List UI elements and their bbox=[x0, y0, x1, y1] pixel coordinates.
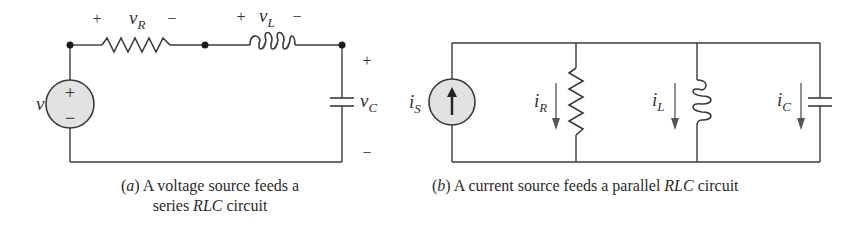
vl-plus-sign: + bbox=[236, 8, 245, 25]
vr-label: vR bbox=[129, 7, 145, 32]
ic-label: iC bbox=[777, 89, 791, 114]
resistor-symbol bbox=[569, 68, 583, 135]
vl-label: vL bbox=[259, 5, 275, 30]
vc-plus-sign: + bbox=[362, 52, 371, 69]
vl-minus-sign: − bbox=[292, 8, 301, 25]
node-dot bbox=[67, 42, 74, 49]
caption-a: (a) A voltage source feeds a series RLC … bbox=[60, 176, 360, 216]
caption-a-line2: series RLC circuit bbox=[60, 196, 360, 216]
node-dot bbox=[339, 42, 346, 49]
caption-a-line1: (a) A voltage source feeds a bbox=[60, 176, 360, 196]
il-arrow-icon bbox=[671, 118, 679, 130]
vr-plus-sign: + bbox=[92, 10, 101, 27]
ic-arrow-icon bbox=[797, 118, 805, 130]
inductor-symbol bbox=[250, 33, 295, 50]
ir-arrow-icon bbox=[552, 118, 560, 130]
series-rlc-circuit: + − v + vR − + vL − + vC − bbox=[36, 5, 377, 162]
vc-minus-sign: − bbox=[362, 144, 371, 161]
source-voltage-label: v bbox=[36, 93, 45, 114]
vc-label: vC bbox=[360, 90, 377, 115]
parallel-rlc-circuit: iS iR iL iC bbox=[409, 43, 832, 162]
inductor-symbol bbox=[693, 80, 711, 125]
source-plus-sign: + bbox=[65, 83, 75, 103]
il-label: iL bbox=[652, 89, 665, 114]
caption-b: (b) A current source feeds a parallel RL… bbox=[432, 176, 842, 196]
vr-minus-sign: − bbox=[167, 10, 176, 27]
ir-label: iR bbox=[534, 90, 547, 115]
node-dot bbox=[202, 42, 209, 49]
resistor-symbol bbox=[102, 38, 170, 52]
is-label: iS bbox=[409, 91, 421, 116]
source-minus-sign: − bbox=[65, 108, 75, 128]
